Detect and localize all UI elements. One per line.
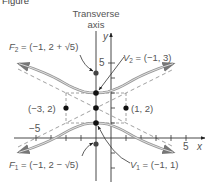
y-axis-label: y — [102, 31, 109, 42]
x-axis-label: x — [196, 141, 203, 152]
vertex-v1-point — [93, 120, 99, 126]
f2-label: F2 = (−1, 2 + √5) — [9, 41, 78, 53]
transverse-axis-title-line2: axis — [88, 19, 105, 30]
center-point — [93, 105, 99, 111]
figure-caption: Figure — [2, 0, 29, 6]
left-point-label: (−3, 2) — [28, 103, 56, 114]
focus-f2-point — [93, 70, 98, 75]
f1-pointer — [82, 143, 93, 156]
v1-label: V1 = (−1, 1) — [130, 159, 179, 171]
hyperbola-diagram: Figure Transverse axis − — [0, 0, 209, 188]
transverse-axis-title-line1: Transverse — [72, 8, 119, 19]
vertex-v2-point — [93, 90, 99, 96]
x-tick-label-5: 5 — [183, 141, 189, 152]
f1-label: F1 = (−1, 2 − √5) — [9, 159, 78, 171]
box-left-point — [63, 105, 68, 110]
right-point-label: (1, 2) — [131, 103, 153, 114]
v2-label: V2 = (−1, 3) — [123, 52, 172, 64]
f2-pointer — [80, 55, 93, 71]
y-ticks — [108, 63, 115, 168]
y-tick-label-5: 5 — [99, 57, 105, 68]
box-right-point — [123, 105, 128, 110]
focus-f1-point — [93, 141, 98, 146]
x-tick-label-neg5: −5 — [29, 123, 41, 134]
